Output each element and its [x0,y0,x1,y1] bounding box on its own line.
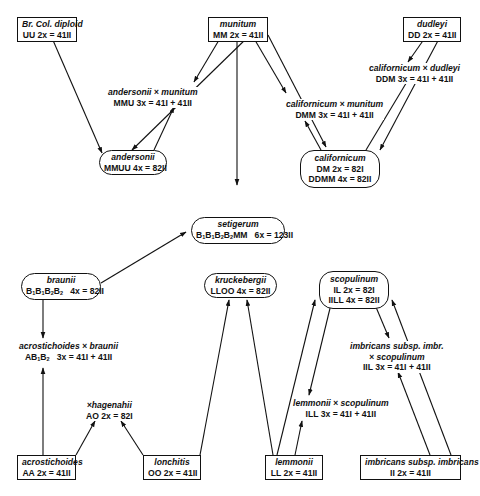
arrow-acrostichoides-to-hagenahii [76,421,95,455]
node-name: acrostichoides [22,457,71,468]
node-name: Br. Col. diploid [22,19,72,30]
node-name: scopulinum [324,274,384,285]
hybrid-name: californicum × munitum [286,99,383,110]
hybrid-californicum-x-munitum: californicum × munitum DMM 3x = 41I + 41… [285,99,384,120]
hybrid-californicum-x-dudleyi: californicum × dudleyi DDM 3x = 41I + 41… [368,63,461,84]
node-acrostichoides: acrostichoides AA 2x = 41II [17,455,76,480]
node-name: setigerum [196,219,280,230]
arrow-lemmonii-to-scopulinum [277,300,315,455]
node-genome: AA 2x = 41II [22,468,71,479]
node-genome: LLOO 4x = 82II [209,286,272,297]
arrow-imbricans-to-imb-x-scop [398,372,430,455]
node-name: braunii [26,275,96,286]
hybrid-name-2: × scopulinum [350,352,444,363]
node-name: munitum [213,19,263,30]
hybrid-name: imbricans subsp. imbr. [350,341,444,352]
node-braunii: braunii B1B1B2B2 4x = 82II [21,273,101,300]
node-name: dudleyi [408,19,456,30]
node-name: lemmonii [270,457,318,468]
arrow-californicum-to-cal-x-mun [305,121,321,150]
arrow-dudleyi-to-californicum [380,35,441,150]
hybrid-name: ×hagenahii [86,400,133,411]
hybrid-andersonii-x-munitum: andersonii × munitum MMU 3x = 41I + 41II [107,87,199,108]
hybrid-x-hagenahii: ×hagenahii AO 2x = 82I [85,400,134,421]
node-kruckebergii: kruckebergii LLOO 4x = 82II [204,273,277,298]
node-genome: B1B1B2B2 4x = 82II [26,286,96,299]
node-br-col-diploid: Br. Col. diploid UU 2x = 41II [17,17,77,42]
hybrid-name: andersonii × munitum [108,87,198,98]
node-genome: LL 2x = 41II [270,468,318,479]
node-genome: DDMM 4x = 82II [305,174,375,185]
hybrid-acrostichoides-x-braunii: acrostichoides × braunii AB1B2 3x = 41I … [18,341,119,364]
hybrid-genome: AB1B2 3x = 41I + 41II [19,352,118,365]
node-name: kruckebergii [209,275,272,286]
hybrid-imbricans-x-scopulinum: imbricans subsp. imbr. × scopulinum IIL … [349,341,445,373]
node-genome: DM 2x = 82I [305,164,375,175]
hybrid-genome: MMU 3x = 41I + 41II [108,98,198,109]
hybrid-name: lemmonii × scopulinum [293,398,389,409]
node-dudleyi: dudleyi DD 2x = 41II [403,17,461,42]
node-californicum: californicum DM 2x = 82I DDMM 4x = 82II [300,150,380,188]
node-genome: OO 2x = 41II [148,468,196,479]
node-imbricans-imbricans: imbricans subsp. imbricans II 2x = 41II [360,455,461,480]
arrow-lonchitis-to-hagenahii [121,421,143,455]
arrow-scopulinum-to-lem-x-scop [309,300,332,395]
node-genome: MMUU 4x = 82II [104,163,162,174]
node-munitum: munitum MM 2x = 41II [208,17,268,42]
arrow-munitum-to-cal-x-mun [252,35,286,93]
arrow-lonchitis-to-kruckebergii [200,300,229,455]
node-name: andersonii [104,152,162,163]
hybrid-genome: ILL 3x = 41I + 41II [293,409,389,420]
node-genome: UU 2x = 41II [22,30,72,41]
node-andersonii: andersonii MMUU 4x = 82II [99,150,167,175]
arrow-munitum-to-hybrid [194,35,222,82]
node-name: imbricans subsp. imbricans [365,457,456,468]
hybrid-genome: DDM 3x = 41I + 41II [369,74,460,85]
node-genome: DD 2x = 41II [408,30,456,41]
node-name: californicum [305,153,375,164]
node-genome: B1B1B2B2MM 6x = 123II [196,230,280,243]
node-lemmonii: lemmonii LL 2x = 41II [265,455,323,480]
arrow-brcol-to-andersonii [52,38,102,153]
arrow-munitum-to-californicum [268,35,326,147]
node-scopulinum: scopulinum IL 2x = 82I IILL 4x = 82II [319,271,389,309]
arrow-braunii-to-setigerum [101,232,186,283]
hybrid-lemmonii-x-scopulinum: lemmonii × scopulinum ILL 3x = 41I + 41I… [292,398,390,419]
arrow-lemmonii-to-kruckebergii [247,300,273,455]
hybrid-name: californicum × dudleyi [369,63,460,74]
hybrid-genome: IIL 3x = 41I + 41II [350,362,444,373]
hybrid-genome: AO 2x = 82I [86,411,133,422]
arrow-andersonii-to-hybrid [154,107,174,150]
hybrid-name: acrostichoides × braunii [19,341,118,352]
node-lonchitis: lonchitis OO 2x = 41II [143,455,201,480]
node-setigerum: setigerum B1B1B2B2MM 6x = 123II [191,217,285,244]
arrow-lemmonii-to-lem-x-scop [295,421,302,455]
node-genome: II 2x = 41II [365,468,456,479]
node-genome: MM 2x = 41II [213,30,263,41]
node-genome: IL 2x = 82I [324,285,384,296]
hybrid-genome: DMM 3x = 41I + 41II [286,110,383,121]
node-genome: IILL 4x = 82II [324,295,384,306]
node-name: lonchitis [148,457,196,468]
